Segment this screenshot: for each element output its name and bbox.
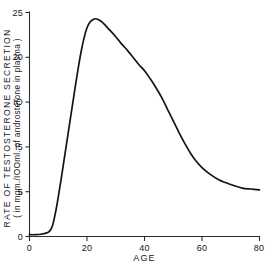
x-axis-title: AGE: [133, 253, 155, 263]
x-tick-label-40: 40: [139, 243, 150, 253]
x-tick-label-20: 20: [82, 243, 93, 253]
y-tick-label-0: 0: [18, 232, 23, 242]
testosterone-secretion-line-chart: 0 5 IO I5 20 25 0 20 40 60 80 AGE RATE O…: [0, 0, 277, 264]
x-tick-label-80: 80: [254, 243, 265, 253]
y-axis-title-line2: ( in mgm./IOOml. of androsterone in plas…: [13, 38, 22, 218]
x-axis-ticks: [30, 237, 260, 242]
y-tick-label-25: 25: [12, 8, 23, 18]
x-tick-label-60: 60: [197, 243, 208, 253]
chart-figure: 0 5 IO I5 20 25 0 20 40 60 80 AGE RATE O…: [0, 0, 277, 264]
testosterone-secretion-curve: [30, 19, 260, 235]
x-tick-label-0: 0: [27, 243, 32, 253]
y-axis-ticks: [26, 13, 30, 237]
y-axis-title-line1: RATE OF TESTOSTERONE SECRETION: [2, 29, 12, 228]
